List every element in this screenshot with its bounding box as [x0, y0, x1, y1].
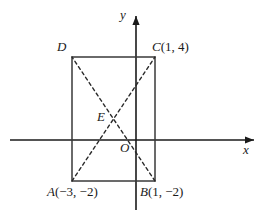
point-label-e: E: [97, 110, 105, 123]
y-axis-label: y: [120, 8, 126, 21]
origin-label-text: O: [120, 140, 129, 155]
point-label-c-coords: (1, 4): [161, 39, 189, 54]
coordinate-geometry-figure: D C(1, 4) A(−3, −2) B(1, −2) E O y x: [0, 0, 267, 223]
point-label-e-name: E: [97, 109, 105, 124]
diagram-canvas: [0, 0, 267, 223]
point-label-c: C(1, 4): [152, 40, 189, 53]
point-label-a-coords: (−3, −2): [55, 184, 98, 199]
x-axis-label: x: [243, 143, 249, 156]
point-label-a-name: A: [47, 184, 55, 199]
point-label-b-coords: (1, −2): [148, 184, 184, 199]
point-label-d: D: [57, 40, 66, 53]
point-label-b: B(1, −2): [140, 185, 183, 198]
point-label-b-name: B: [140, 184, 148, 199]
y-axis-arrowhead-icon: [132, 16, 139, 25]
point-label-d-name: D: [57, 39, 66, 54]
x-axis: [10, 136, 254, 143]
point-label-c-name: C: [152, 39, 161, 54]
point-label-a: A(−3, −2): [47, 185, 98, 198]
origin-label: O: [120, 141, 129, 154]
